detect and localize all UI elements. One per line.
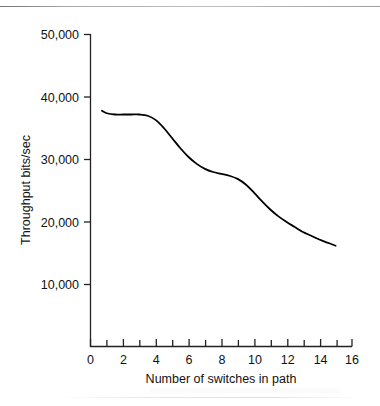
scan-artifact-smudge <box>150 388 340 393</box>
scan-artifact-bottom <box>60 397 360 398</box>
y-tick-label-20000: 20,000 <box>41 216 79 230</box>
y-tick-label-40000: 40,000 <box>41 91 79 105</box>
x-tick-label-16: 16 <box>345 353 359 367</box>
y-tick-label-30000: 30,000 <box>41 153 79 167</box>
x-tick-label-2: 2 <box>120 353 127 367</box>
x-tick-label-14: 14 <box>314 353 328 367</box>
x-tick-label-12: 12 <box>281 353 295 367</box>
scan-artifact-top <box>0 6 380 7</box>
chart-figure: 50,000 40,000 30,000 20,000 10,000 <box>0 0 380 406</box>
y-axis-title: Throughput bits/sec <box>19 135 33 245</box>
chart-background <box>0 0 380 406</box>
x-tick-label-6: 6 <box>186 353 193 367</box>
x-tick-label-8: 8 <box>219 353 226 367</box>
y-tick-label-50000: 50,000 <box>41 28 79 42</box>
x-axis-title: Number of switches in path <box>146 372 297 386</box>
y-tick-label-10000: 10,000 <box>41 278 79 292</box>
x-tick-label-10: 10 <box>248 353 262 367</box>
x-tick-label-4: 4 <box>153 353 160 367</box>
line-chart-svg: 50,000 40,000 30,000 20,000 10,000 <box>0 0 380 406</box>
x-tick-label-0: 0 <box>87 353 94 367</box>
